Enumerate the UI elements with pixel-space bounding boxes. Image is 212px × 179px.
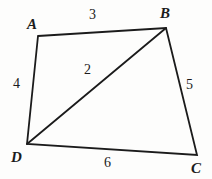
edge-length-label-da: 4 bbox=[13, 77, 20, 91]
vertex-label-a: A bbox=[27, 17, 37, 32]
diagonal-line-db bbox=[27, 28, 166, 144]
edge-length-label-bc: 5 bbox=[186, 78, 193, 92]
vertex-label-b: B bbox=[160, 6, 170, 21]
edge-length-label-ab: 3 bbox=[89, 8, 96, 22]
vertex-label-d: D bbox=[11, 150, 22, 165]
geometry-diagram: A B C D 3 5 6 4 2 bbox=[0, 0, 212, 179]
quadrilateral-outline bbox=[27, 28, 197, 155]
edge-length-label-db: 2 bbox=[84, 63, 91, 77]
edge-length-label-cd: 6 bbox=[104, 156, 111, 170]
vertex-label-c: C bbox=[191, 161, 201, 176]
